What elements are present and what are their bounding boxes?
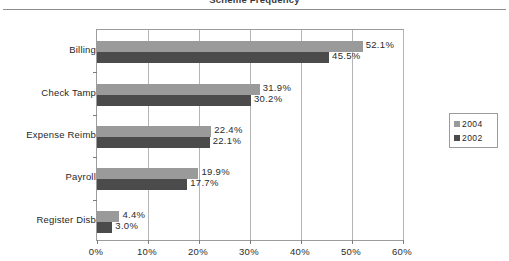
chart-legend: 2004 2002	[449, 113, 498, 148]
bar-2002-payroll	[97, 179, 187, 190]
legend-label-2004: 2004	[462, 119, 483, 129]
legend-swatch-icon-2004	[454, 121, 460, 127]
gridline	[352, 30, 353, 240]
bar-2004-check-tamp	[97, 84, 260, 95]
x-axis-tick	[352, 240, 353, 244]
x-axis-tick	[250, 240, 251, 244]
bar-value-label: 45.5%	[332, 50, 360, 61]
x-axis-label: 10%	[137, 246, 157, 257]
category-label: Billing	[69, 44, 96, 55]
bar-value-label: 52.1%	[366, 39, 394, 50]
bar-2004-payroll	[97, 168, 198, 179]
bar-2002-billing	[97, 52, 329, 63]
x-axis-label: 60%	[392, 246, 412, 257]
bar-value-label: 31.9%	[263, 82, 291, 93]
legend-label-2002: 2002	[462, 133, 483, 143]
bar-2004-expense-reimb	[97, 126, 211, 137]
x-axis-label: 30%	[239, 246, 259, 257]
category-label: Expense Reimb	[26, 129, 96, 140]
category-label: Register Disb	[36, 214, 96, 225]
x-axis-tick	[403, 240, 404, 244]
category-label: Payroll	[66, 171, 96, 182]
y-axis-tick	[93, 72, 97, 73]
x-axis-tick	[199, 240, 200, 244]
y-axis-tick	[93, 200, 97, 201]
x-axis-label: 50%	[341, 246, 361, 257]
bar-value-label: 22.4%	[214, 124, 242, 135]
bar-2002-register-disb	[97, 222, 112, 233]
x-axis-tick	[301, 240, 302, 244]
legend-item-2004[interactable]: 2004	[454, 119, 483, 129]
legend-swatch-icon-2002	[454, 135, 460, 141]
category-label: Check Tamp	[41, 87, 96, 98]
x-axis-tick	[97, 240, 98, 244]
x-axis-label: 0%	[89, 246, 104, 257]
bar-2002-expense-reimb	[97, 137, 210, 148]
bar-2002-check-tamp	[97, 95, 251, 106]
bar-value-label: 3.0%	[115, 220, 138, 231]
x-axis-label: 20%	[188, 246, 208, 257]
legend-item-2002[interactable]: 2002	[454, 133, 483, 143]
bar-value-label: 22.1%	[213, 135, 241, 146]
header-divider	[3, 9, 506, 10]
bar-value-label: 19.9%	[201, 166, 229, 177]
bar-value-label: 4.4%	[122, 209, 145, 220]
bar-value-label: 17.7%	[190, 177, 218, 188]
gridline	[403, 30, 404, 240]
chart-title: Scheme Frequency	[0, 0, 509, 5]
y-axis-tick	[93, 115, 97, 116]
x-axis-tick	[148, 240, 149, 244]
bar-value-label: 30.2%	[254, 93, 282, 104]
chart-title-clip: Scheme Frequency	[0, 0, 509, 8]
x-axis-label: 40%	[290, 246, 310, 257]
y-axis-tick	[93, 157, 97, 158]
chart-screenshot: Scheme Frequency 0%10%20%30%40%50%60%Bil…	[0, 0, 509, 261]
bar-2004-billing	[97, 41, 363, 52]
